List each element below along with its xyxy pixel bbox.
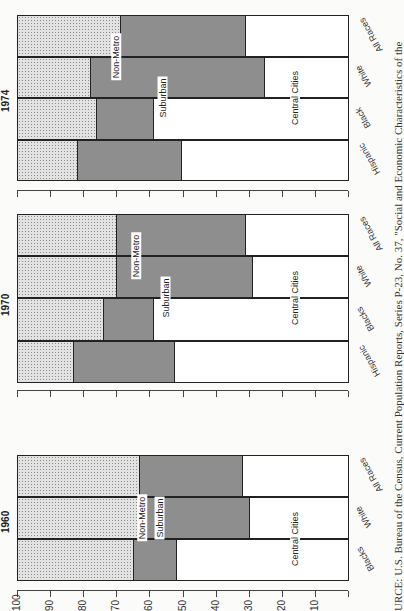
category-label: White xyxy=(353,64,373,89)
central-cities-label: Central Cities xyxy=(290,510,300,568)
axis-tick-label: 60 xyxy=(143,600,154,611)
nonmetro-segment xyxy=(17,341,74,383)
category-label: All Races xyxy=(357,456,385,494)
source-caption: URCE: U.S. Bureau of the Census, Current… xyxy=(392,42,404,611)
panel-title-1970: 1970 xyxy=(0,294,11,316)
nonmetro-segment xyxy=(17,256,117,298)
central-segment xyxy=(264,57,349,99)
category-label: Blacks xyxy=(354,545,376,573)
axis-tick-label: 90 xyxy=(44,600,55,611)
axis-tick xyxy=(17,191,18,197)
central-segment xyxy=(181,140,349,182)
axis-tick xyxy=(149,591,150,597)
axis-tick xyxy=(17,391,18,397)
nonmetro-segment xyxy=(17,57,91,99)
axis-tick xyxy=(183,391,184,397)
central-segment xyxy=(153,98,349,140)
bar-row xyxy=(17,140,348,182)
axis-tick xyxy=(83,191,84,197)
category-label: Black xyxy=(353,106,373,130)
axis-tick-label: 50 xyxy=(177,600,188,611)
bar-row xyxy=(17,15,348,57)
axis-tick xyxy=(83,391,84,397)
axis-tick-label: 100 xyxy=(11,594,22,611)
suburban-segment xyxy=(73,341,175,383)
category-label: All Races xyxy=(357,16,385,54)
bar-row xyxy=(17,455,348,497)
bar-row xyxy=(17,214,348,256)
axis-tick-label: 20 xyxy=(276,600,287,611)
axis-tick xyxy=(149,391,150,397)
nonmetro-label: Non-Metro xyxy=(131,233,141,280)
axis-tick xyxy=(282,591,283,597)
x-axis xyxy=(17,190,348,199)
nonmetro-segment xyxy=(17,15,121,57)
central-segment xyxy=(242,455,349,497)
suburban-segment xyxy=(96,98,153,140)
axis-tick xyxy=(216,591,217,597)
axis-tick xyxy=(249,391,250,397)
central-segment xyxy=(176,539,349,581)
suburban-segment xyxy=(133,539,177,581)
axis-tick xyxy=(183,591,184,597)
suburban-segment xyxy=(120,15,247,57)
nonmetro-segment xyxy=(17,455,140,497)
central-segment xyxy=(245,214,349,256)
central-segment xyxy=(174,341,349,383)
nonmetro-segment xyxy=(17,298,104,340)
nonmetro-segment xyxy=(17,140,78,182)
central-segment xyxy=(252,256,349,298)
axis-tick xyxy=(282,391,283,397)
axis-tick xyxy=(216,191,217,197)
axis-tick xyxy=(348,191,349,197)
category-label: Hispanic xyxy=(356,343,382,378)
x-axis xyxy=(17,590,348,599)
category-label: White xyxy=(353,264,373,289)
nonmetro-label: Non-Metro xyxy=(138,495,148,542)
axis-tick-label: 80 xyxy=(77,600,88,611)
axis-tick xyxy=(315,591,316,597)
category-label: All Races xyxy=(357,215,385,253)
axis-tick xyxy=(50,591,51,597)
category-label: Blacks xyxy=(354,305,376,333)
axis-tick xyxy=(315,391,316,397)
panel-title-1974: 1974 xyxy=(0,90,11,112)
axis-tick-label: 30 xyxy=(243,600,254,611)
axis-tick xyxy=(282,191,283,197)
nonmetro-segment xyxy=(17,539,134,581)
axis-tick xyxy=(249,191,250,197)
nonmetro-segment xyxy=(17,214,117,256)
axis-tick xyxy=(315,191,316,197)
axis-tick xyxy=(348,391,349,397)
nonmetro-label: Non-Metro xyxy=(111,33,121,80)
suburban-label: Suburban xyxy=(158,76,168,119)
axis-tick xyxy=(50,391,51,397)
axis-tick xyxy=(116,591,117,597)
axis-tick xyxy=(149,191,150,197)
suburban-label: Suburban xyxy=(154,496,164,539)
axis-tick-label: 40 xyxy=(210,600,221,611)
axis-tick-label: 10 xyxy=(309,600,320,611)
category-label: White xyxy=(353,505,373,530)
axis-tick xyxy=(116,391,117,397)
axis-tick xyxy=(116,191,117,197)
nonmetro-segment xyxy=(17,98,97,140)
central-cities-label: Central Cities xyxy=(290,69,300,127)
central-segment xyxy=(245,15,349,57)
central-cities-label: Central Cities xyxy=(290,269,300,327)
bar-row xyxy=(17,341,348,383)
category-label: Hispanic xyxy=(356,142,382,177)
suburban-segment xyxy=(139,455,243,497)
nonmetro-segment xyxy=(17,497,144,539)
panel-title-1960: 1960 xyxy=(0,511,11,533)
x-axis xyxy=(17,390,348,399)
suburban-label: Suburban xyxy=(161,277,171,320)
axis-tick-label: 70 xyxy=(110,600,121,611)
axis-tick xyxy=(216,391,217,397)
axis-tick xyxy=(183,191,184,197)
suburban-segment xyxy=(103,298,154,340)
central-segment xyxy=(153,298,349,340)
axis-tick xyxy=(50,191,51,197)
axis-tick xyxy=(83,591,84,597)
axis-tick xyxy=(249,591,250,597)
